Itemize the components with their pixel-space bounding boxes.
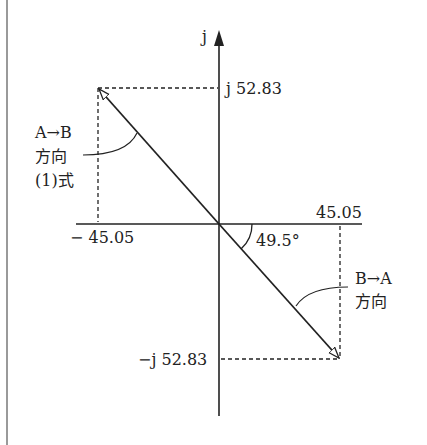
label-angle: 49.5°	[256, 231, 300, 250]
label-right-real: 45.05	[316, 203, 362, 222]
leader-ab	[83, 133, 137, 155]
label-ba-line1: B→A	[355, 269, 392, 288]
angle-arc	[241, 224, 252, 249]
label-ab-line3: (1)式	[35, 171, 74, 190]
imag-axis-arrow-icon	[214, 30, 224, 46]
label-ab-line1: A→B	[34, 123, 72, 142]
label-ba-line2: 方向	[355, 292, 387, 311]
vector-a-to-b	[99, 89, 219, 224]
label-bottom-imag: −j 52.83	[138, 350, 207, 369]
phasor-diagram: j j 52.83 −j 52.83 45.05 − 45.05 49.5° A…	[0, 0, 427, 445]
label-top-imag: j 52.83	[224, 79, 282, 98]
label-ab-line2: 方向	[35, 147, 67, 166]
imag-axis-label: j	[200, 27, 207, 46]
label-left-real: − 45.05	[70, 228, 134, 247]
